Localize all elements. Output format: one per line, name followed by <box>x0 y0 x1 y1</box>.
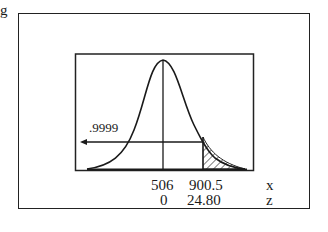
x-mean-value: 506 <box>151 178 174 193</box>
x-axis-name: x <box>266 178 274 193</box>
z-axis-name: z <box>266 193 273 208</box>
area-label: .9999 <box>89 120 118 136</box>
plot-box <box>76 54 254 171</box>
x-cut-value: 900.5 <box>189 178 223 193</box>
z-mean-value: 0 <box>160 193 168 208</box>
arrowhead-icon <box>80 139 87 145</box>
bell-curve <box>87 60 245 169</box>
z-cut-value: 24.80 <box>187 193 221 208</box>
